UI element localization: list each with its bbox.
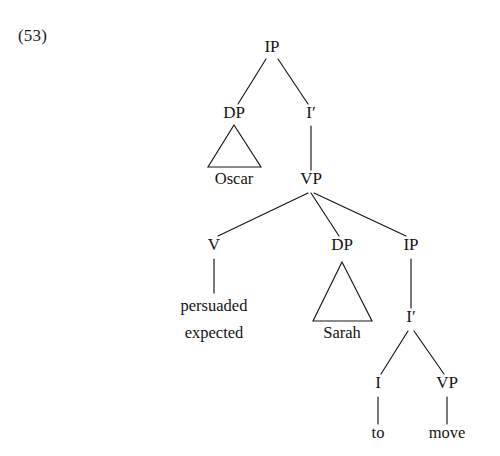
edge-i-bar-to-i (381, 331, 408, 374)
leaf-oscar: Oscar (215, 169, 254, 188)
node-i-bar-embedded: I′ (406, 307, 415, 326)
edge-vp-to-ip-embedded (314, 193, 406, 236)
edge-ip-to-dp-subject (238, 59, 266, 104)
node-dp-object: DP (331, 235, 353, 254)
leaf-persuaded: persuaded (181, 296, 249, 315)
leaf-expected: expected (185, 323, 244, 342)
node-i-head: I (375, 373, 381, 392)
triangle-sarah (313, 262, 372, 321)
leaf-sarah: Sarah (323, 323, 361, 342)
edge-i-bar-to-vp-embed (414, 331, 444, 374)
node-vp-matrix: VP (300, 169, 322, 188)
tree-triangles (208, 125, 372, 321)
triangle-oscar (208, 125, 261, 167)
node-ip-embedded: IP (403, 235, 418, 254)
node-ip-root: IP (264, 37, 279, 56)
node-vp-embedded: VP (436, 373, 458, 392)
figure-canvas: (53) IP DP I′ VP V DP IP (0, 0, 500, 456)
syntax-tree-diagram: IP DP I′ VP V DP IP I′ I VP Oscar persua… (0, 0, 500, 456)
leaf-move: move (429, 423, 466, 442)
tree-leaf-labels: Oscar persuaded expected Sarah to move (181, 169, 466, 442)
node-i-bar-matrix: I′ (306, 103, 315, 122)
edge-ip-to-i-bar (278, 59, 308, 104)
node-dp-subject: DP (223, 103, 245, 122)
leaf-to: to (372, 423, 385, 442)
edge-vp-to-dp-object (311, 193, 339, 236)
node-v-head: V (208, 235, 221, 254)
edge-vp-to-v (218, 193, 308, 236)
